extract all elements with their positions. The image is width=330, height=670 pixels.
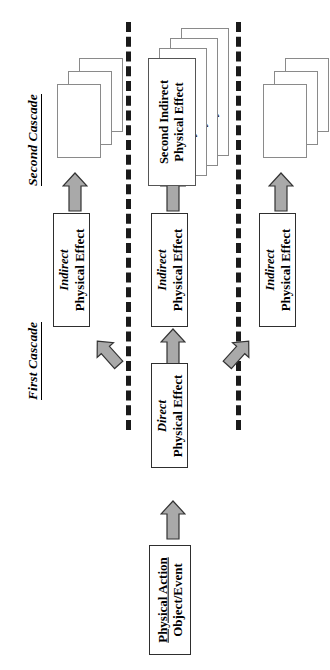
second-cascade-stack-left [57, 58, 123, 158]
stack-card-text: Second Indirect Physical Effect [157, 80, 187, 164]
second-cascade-stack-middle: Second Indirect Physical Effect Second I… [148, 28, 230, 186]
arrow-up-icon [160, 500, 186, 540]
arrow-up-icon [268, 172, 294, 212]
box-line-physical-effect: Physical Effect [71, 229, 86, 312]
arrow-up-right-icon [218, 333, 258, 373]
box-text: Indirect Physical Effect [56, 229, 86, 312]
box-line-physical-effect: Physical Effect [169, 374, 184, 457]
box-text: Indirect Physical Effect [154, 229, 184, 312]
stack-card-front: Second Indirect Physical Effect [148, 58, 196, 186]
box-line-indirect: Indirect [262, 229, 277, 312]
stack-card [57, 84, 101, 158]
arrow-up-icon [62, 172, 88, 212]
section-label-second-cascade: Second Cascade [26, 94, 42, 186]
diagram-canvas: Second Cascade First Cascade Second Indi… [0, 0, 330, 670]
box-line-indirect: Indirect [154, 229, 169, 312]
arrow-up-icon [160, 328, 186, 368]
stack-card [263, 84, 307, 158]
first-cascade-box-middle: Indirect Physical Effect [151, 213, 188, 327]
stack-card-line1: Second Indirect [157, 80, 172, 164]
box-line-object-event: Object/Event [170, 557, 185, 643]
box-line-physical-action: Physical Action [155, 557, 170, 643]
box-text: Indirect Physical Effect [262, 229, 292, 312]
box-line-direct: Direct [154, 374, 169, 457]
box-line-physical-effect: Physical Effect [169, 229, 184, 312]
stack-card-line2: Physical Effect [172, 80, 187, 164]
physical-action-box: Physical Action Object/Event [149, 545, 191, 655]
direct-physical-effect-box: Direct Physical Effect [151, 363, 188, 468]
box-text: Direct Physical Effect [154, 374, 184, 457]
section-label-first-cascade: First Cascade [26, 322, 42, 400]
box-line-physical-effect: Physical Effect [277, 229, 292, 312]
box-line-indirect: Indirect [56, 229, 71, 312]
box-text: Physical Action Object/Event [155, 557, 186, 643]
arrow-up-left-icon [88, 333, 128, 373]
first-cascade-box-right: Indirect Physical Effect [259, 213, 296, 327]
second-cascade-stack-right [263, 58, 329, 158]
first-cascade-box-left: Indirect Physical Effect [53, 213, 90, 327]
